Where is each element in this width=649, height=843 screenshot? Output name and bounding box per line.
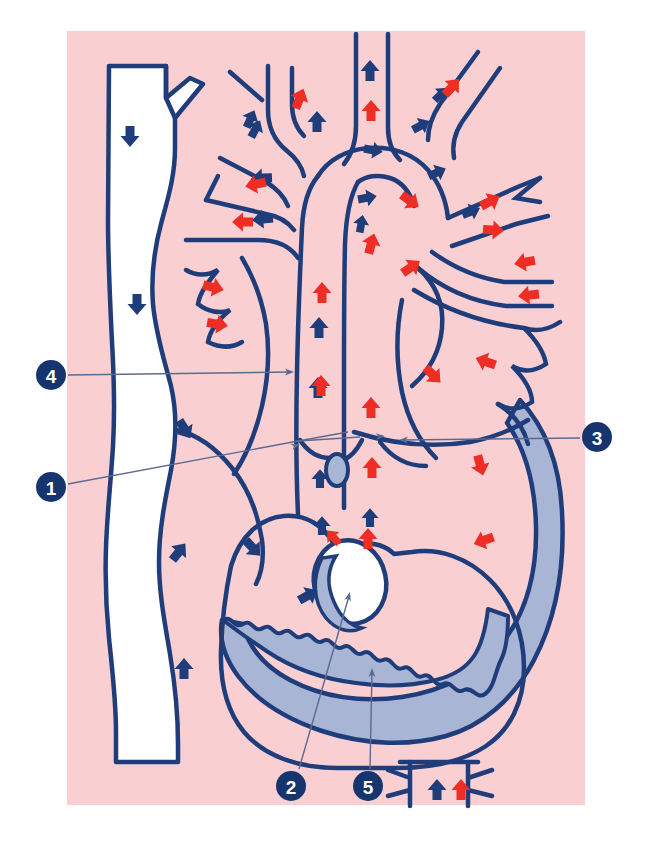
- callout-3-disc[interactable]: [582, 422, 612, 452]
- callout-1-disc[interactable]: [36, 472, 66, 502]
- callout-5-disc[interactable]: [353, 771, 383, 801]
- heart-diagram-canvas: 12345: [0, 0, 649, 843]
- heart-diagram-figure: 12345: [0, 0, 649, 843]
- aortic-valve-nodule: [326, 454, 348, 486]
- callout-2-disc[interactable]: [276, 771, 306, 801]
- callout-4-disc[interactable]: [36, 360, 66, 390]
